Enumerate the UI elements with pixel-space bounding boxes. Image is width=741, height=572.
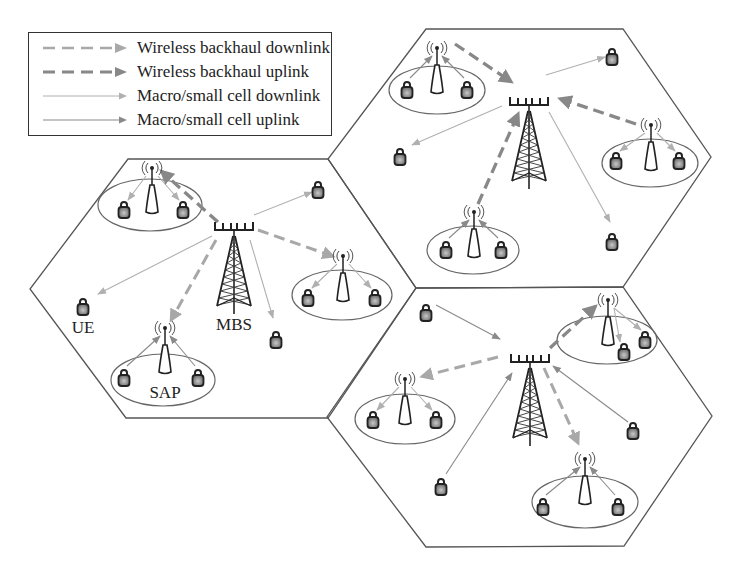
legend-label: Macro/small cell downlink — [137, 85, 320, 107]
ue-icon — [119, 370, 130, 386]
ue-icon — [119, 202, 130, 218]
sap-icon — [641, 118, 661, 171]
ue-icon — [303, 290, 314, 306]
ue-icon — [78, 299, 89, 315]
legend-label: Macro/small cell uplink — [137, 109, 299, 131]
access-downlink-arrow — [546, 57, 605, 75]
backhaul-downlink-arrow — [171, 240, 216, 320]
access-uplink-arrow — [170, 336, 195, 366]
ue-icon — [313, 182, 324, 198]
mbs-tower-icon — [215, 222, 253, 314]
ue-icon — [368, 412, 379, 428]
mbs-tower-icon — [511, 354, 549, 446]
access-downlink-arrow — [250, 240, 273, 318]
mbs-tower-icon — [510, 97, 548, 189]
ue-icon — [674, 153, 685, 169]
legend-item-backhaul-uplink: Wireless backhaul uplink — [29, 61, 331, 85]
backhaul-uplink-arrow — [478, 114, 518, 204]
access-downlink-arrow — [620, 133, 645, 151]
access-downlink-arrow — [377, 387, 399, 410]
backhaul-uplink-arrow — [560, 99, 636, 124]
ue-label: UE — [72, 318, 95, 338]
solid-arrow-icon — [41, 89, 131, 103]
legend-item-backhaul-downlink: Wireless backhaul downlink — [29, 37, 331, 61]
sap-icon — [142, 161, 162, 214]
ue-icon — [538, 499, 549, 515]
backhaul-downlink-arrow — [422, 357, 498, 377]
backhaul-uplink-arrow — [161, 171, 218, 222]
backhaul-downlink-arrow — [258, 230, 333, 256]
access-uplink-arrow — [446, 373, 512, 474]
legend-label: Wireless backhaul downlink — [137, 37, 330, 59]
ue-icon — [607, 49, 618, 65]
ue-icon — [395, 149, 406, 165]
access-downlink-arrow — [254, 192, 312, 215]
access-downlink-arrow — [549, 112, 610, 222]
ue-icon — [178, 202, 189, 218]
ue-icon — [431, 412, 442, 428]
access-uplink-arrow — [127, 336, 160, 366]
ue-icon — [271, 332, 282, 348]
mbs-label: MBS — [216, 315, 252, 335]
access-downlink-arrow — [312, 264, 337, 288]
access-uplink-arrow — [436, 305, 500, 339]
sap-icon — [333, 249, 353, 302]
backhaul-downlink-arrow — [544, 368, 578, 443]
bottom-cell-hexagon — [327, 287, 712, 547]
ue-icon — [441, 242, 452, 258]
access-uplink-arrow — [553, 366, 628, 422]
ue-icon — [370, 290, 381, 306]
access-downlink-arrow — [98, 236, 212, 294]
dashed-arrow-icon — [41, 65, 131, 79]
sap-icon — [575, 452, 595, 505]
sap-label: SAP — [149, 383, 180, 403]
legend: Wireless backhaul downlink Wireless back… — [28, 32, 332, 136]
legend-item-access-uplink: Macro/small cell uplink — [29, 109, 331, 133]
access-downlink-arrow — [158, 176, 179, 200]
access-downlink-arrow — [614, 308, 620, 342]
ue-icon — [640, 332, 651, 348]
legend-item-access-downlink: Macro/small cell downlink — [29, 85, 331, 109]
dashed-arrow-icon — [41, 41, 131, 55]
ue-icon — [607, 234, 618, 250]
ue-icon — [619, 344, 630, 360]
sap-icon — [427, 41, 447, 94]
ue-icon — [421, 305, 432, 321]
access-downlink-arrow — [614, 308, 641, 330]
ue-icon — [611, 153, 622, 169]
ue-icon — [628, 423, 639, 439]
sap-icon — [464, 205, 484, 258]
access-downlink-arrow — [349, 264, 371, 288]
ue-icon — [496, 242, 507, 258]
access-uplink-arrow — [590, 467, 615, 495]
ue-icon — [402, 82, 413, 98]
sap-icon — [598, 293, 618, 346]
backhaul-uplink-arrow — [550, 306, 596, 348]
sap-icon — [155, 321, 175, 374]
ue-icon — [462, 82, 473, 98]
access-uplink-arrow — [442, 56, 464, 78]
access-downlink-arrow — [411, 387, 432, 410]
access-uplink-arrow — [410, 56, 432, 78]
backhaul-uplink-arrow — [455, 44, 511, 82]
left-cell-hexagon — [30, 159, 416, 418]
access-uplink-arrow — [546, 467, 580, 495]
ue-icon — [436, 479, 447, 495]
ue-icon — [193, 370, 204, 386]
solid-arrow-icon — [41, 113, 131, 127]
sap-icon — [395, 372, 415, 425]
ue-icon — [613, 499, 624, 515]
legend-label: Wireless backhaul uplink — [137, 61, 309, 83]
